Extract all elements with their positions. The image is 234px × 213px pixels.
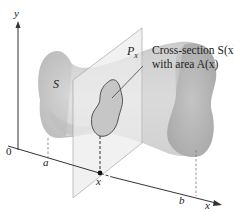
callout-line-2: with area A(x) [152,59,218,71]
y-axis-label: y [14,8,19,19]
tick-label-b: b [179,195,185,206]
origin-label: 0 [6,146,12,157]
callout-line-1: Cross-section S(x) [152,45,234,57]
tick-label-a: a [43,157,49,168]
solid-label: S [53,78,59,90]
x-axis-label: x [205,200,210,211]
diagram-graphic [0,0,234,213]
tick-label-x: x [96,176,101,187]
y-axis [16,21,21,150]
plane-label: Px [127,45,138,60]
cross-section-diagram: y 0 a x b x S Px Cross-section S(x) with… [0,0,234,213]
